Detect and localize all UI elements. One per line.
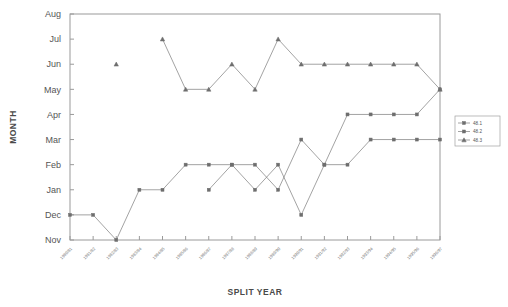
data-point xyxy=(161,188,164,191)
x-axis-tick-label: 1995/96 xyxy=(406,246,421,261)
data-point xyxy=(184,163,187,166)
y-axis-tick-label: Aug xyxy=(45,9,61,19)
y-axis-tick-label: Mar xyxy=(46,135,62,145)
split-year-month-line-chart: AugJulJunMayAprMarFebJanDecNov1980/81198… xyxy=(0,0,508,307)
data-point xyxy=(114,62,118,66)
y-axis-tick-label: May xyxy=(44,85,62,95)
x-axis-tick-label: 1986/87 xyxy=(198,246,213,261)
data-point xyxy=(115,239,118,242)
data-point xyxy=(369,138,372,141)
data-point xyxy=(415,138,418,141)
data-point xyxy=(207,188,210,191)
x-axis-tick-label: 1987/88 xyxy=(221,246,236,261)
series-48-2 xyxy=(69,138,442,241)
legend-swatch-marker xyxy=(463,130,466,133)
x-axis-tick-label: 1990/91 xyxy=(290,246,305,261)
x-axis-tick-label: 1984/85 xyxy=(151,246,166,261)
data-point xyxy=(300,138,303,141)
data-point xyxy=(277,188,280,191)
x-axis-tick-label: 1993/94 xyxy=(360,246,375,261)
data-point xyxy=(415,113,418,116)
data-point xyxy=(254,188,257,191)
y-axis-tick-label: Jul xyxy=(49,34,61,44)
data-point xyxy=(392,113,395,116)
y-axis-tick-label: Jan xyxy=(46,185,61,195)
x-axis-tick-label: 1985/86 xyxy=(175,246,190,261)
data-point xyxy=(160,37,164,41)
data-point xyxy=(230,62,234,66)
legend-label: 48.1 xyxy=(473,121,482,126)
data-point xyxy=(230,163,233,166)
data-point xyxy=(369,113,372,116)
x-axis-tick-label: 1983/84 xyxy=(128,246,143,261)
data-point xyxy=(254,163,257,166)
x-axis-tick-label: 1994/95 xyxy=(383,246,398,261)
x-axis-tick-label: 1991/92 xyxy=(313,246,328,261)
x-axis-tick-label: 1981/82 xyxy=(82,246,97,261)
data-point xyxy=(277,163,280,166)
y-axis-title: MONTH xyxy=(8,110,18,144)
data-point xyxy=(92,213,95,216)
legend-swatch-marker xyxy=(463,122,466,125)
x-axis-tick-label: 1992/93 xyxy=(336,246,351,261)
y-axis-tick-label: Nov xyxy=(45,235,62,245)
x-axis-tick-label: 1988/89 xyxy=(244,246,259,261)
data-point xyxy=(346,113,349,116)
data-point xyxy=(207,163,210,166)
plot-frame xyxy=(70,14,440,240)
y-axis-tick-label: Dec xyxy=(45,210,62,220)
series-48-3 xyxy=(114,37,442,91)
x-axis-title: SPLIT YEAR xyxy=(228,287,283,297)
x-axis-tick-label: 1989/90 xyxy=(267,246,282,261)
data-point xyxy=(392,138,395,141)
y-axis-tick-label: Jun xyxy=(46,59,61,69)
legend-label: 48.3 xyxy=(473,138,482,143)
data-point xyxy=(138,188,141,191)
data-point xyxy=(276,37,280,41)
x-axis-tick-label: 1980/81 xyxy=(59,246,74,261)
legend: 48.148.248.3 xyxy=(455,116,500,146)
x-axis-tick-label: 1982/83 xyxy=(105,246,120,261)
chart-container: AugJulJunMayAprMarFebJanDecNov1980/81198… xyxy=(0,0,508,307)
data-point xyxy=(69,213,72,216)
data-point xyxy=(439,138,442,141)
data-point xyxy=(300,213,303,216)
y-axis-tick-label: Apr xyxy=(47,110,61,120)
legend-label: 48.2 xyxy=(473,129,482,134)
y-axis-tick-label: Feb xyxy=(45,160,61,170)
data-point xyxy=(323,163,326,166)
data-point xyxy=(346,163,349,166)
x-axis-tick-label: 1996/97 xyxy=(429,246,444,261)
